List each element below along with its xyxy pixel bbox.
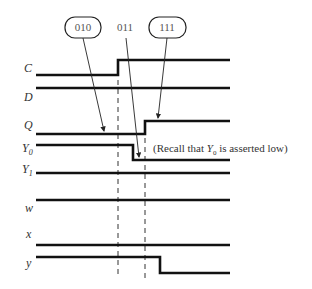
arrow-011 [126,38,139,157]
state-label-011: 011 [117,21,133,33]
timing-diagram: C D Q Y0 Y1 w x y 010 011 111 (Recall th… [0,0,312,289]
signal-label-c: C [24,61,33,75]
signal-label-d: D [23,90,33,104]
arrow-010 [83,38,104,131]
signal-label-y0: Y0 [22,141,33,157]
annotation-note: (Recall that Y0 is asserted low) [153,142,288,157]
state-label-010: 010 [75,21,92,33]
signal-label-w: w [25,201,33,215]
waveform-y [36,257,230,273]
waveform-c [36,60,230,75]
arrow-111 [158,38,167,118]
signal-label-y1: Y1 [22,162,33,178]
signal-label-x: x [25,227,32,241]
state-label-111: 111 [159,21,175,33]
signal-label-y: y [25,256,32,270]
waveform-q [36,121,230,134]
signal-label-q: Q [24,118,33,132]
